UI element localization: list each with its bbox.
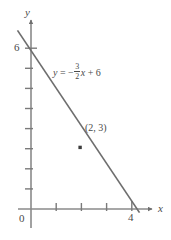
equation-line [18,30,140,212]
plot-area [0,0,171,240]
point-marker [78,146,81,149]
equation-variable: x [81,67,85,78]
x-axis-label: x [158,203,163,214]
point-label: (2, 3) [85,123,107,133]
origin-label: 0 [19,213,25,224]
equation-equals: = [60,67,66,78]
equation-plus: + [88,67,94,78]
linear-equation-figure: y x 0 6 4 (2, 3) y = − 3 2 x + 6 [0,0,171,240]
equation-fraction: 3 2 [74,63,80,81]
equation-minus: − [68,67,74,78]
equation-constant: 6 [96,67,101,78]
equation-lhs: y [53,67,57,78]
y-axis-label: y [25,7,30,18]
fraction-numerator: 3 [74,63,80,72]
fraction-denominator: 2 [74,72,80,81]
equation-annotation: y = − 3 2 x + 6 [53,63,101,81]
x-tick-label-4: 4 [128,212,134,223]
y-tick-label-6: 6 [14,42,20,53]
